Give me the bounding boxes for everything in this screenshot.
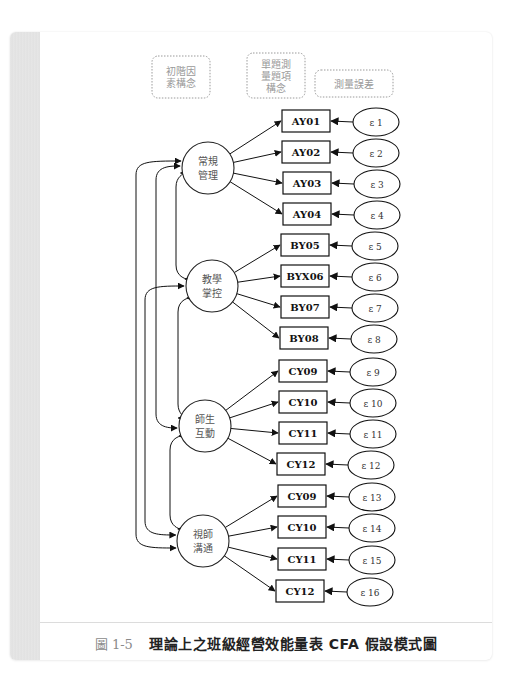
error-label: ε 8 xyxy=(367,335,381,345)
latent-factors: 常規管理教學掌控師生互動視師溝通 xyxy=(177,142,238,567)
covariance-arrow xyxy=(176,173,186,279)
indicator-14: CY10ε 14 xyxy=(278,514,395,542)
indicator-label: BY08 xyxy=(289,333,318,344)
error-arrow xyxy=(326,464,348,465)
error-label: ε 11 xyxy=(364,430,383,440)
indicator-9: CY09ε 9 xyxy=(279,358,396,386)
indicator-label: BYX06 xyxy=(286,271,323,282)
error-label: ε 16 xyxy=(361,588,380,598)
observed-items: AY01ε 1AY02ε 2AY03ε 3AY04ε 4BY05ε 5BYX06… xyxy=(276,108,400,606)
error-label: ε 2 xyxy=(369,149,382,159)
error-arrow xyxy=(331,121,353,122)
error-arrow xyxy=(331,152,353,153)
loading-arrow xyxy=(228,547,277,559)
indicator-12: CY12ε 12 xyxy=(277,451,394,479)
legend-text: 初階因 xyxy=(166,65,196,77)
covariance-arrow xyxy=(170,436,180,529)
error-arrow xyxy=(330,276,352,277)
factor-label: 視師 xyxy=(193,528,213,540)
indicator-label: CY09 xyxy=(288,366,317,377)
legend-first-order-factor: 初階因素構念 xyxy=(152,56,210,98)
loading-arrow xyxy=(229,527,277,536)
error-label: ε 6 xyxy=(368,273,382,283)
indicator-label: BY07 xyxy=(290,302,319,313)
error-arrow xyxy=(329,338,351,339)
factor-circle xyxy=(182,142,234,194)
loading-arrow xyxy=(233,173,282,183)
factor-label: 掌控 xyxy=(202,287,222,299)
loading-arrow xyxy=(228,438,276,464)
cfa-path-diagram: 初階因素構念單題測量題項構念測量誤差 常規管理教學掌控師生互動視師溝通 AY01… xyxy=(0,0,518,682)
indicator-2: AY02ε 2 xyxy=(282,139,399,167)
indicator-label: AY02 xyxy=(291,147,320,158)
indicator-label: BY05 xyxy=(290,240,319,251)
factor-label: 師生 xyxy=(195,413,215,425)
error-arrow xyxy=(325,591,347,592)
error-arrow xyxy=(327,496,349,497)
error-arrow xyxy=(328,371,350,372)
factor-loading-arrows xyxy=(224,121,282,591)
indicator-11: CY11ε 11 xyxy=(279,420,396,448)
legend-measurement-error: 測量誤差 xyxy=(315,70,393,97)
loading-arrow xyxy=(230,182,282,214)
indicator-label: CY10 xyxy=(288,397,317,408)
factor-circle xyxy=(177,515,229,567)
error-label: ε 13 xyxy=(363,493,382,503)
error-label: ε 10 xyxy=(364,399,383,409)
legend-text: 素構念 xyxy=(166,77,196,89)
indicator-4: AY04ε 4 xyxy=(283,201,400,229)
factor-label: 教學 xyxy=(202,273,222,285)
indicator-6: BYX06ε 6 xyxy=(281,263,398,291)
indicator-label: CY12 xyxy=(286,459,315,470)
legend-single-item-construct: 單題測量題項構念 xyxy=(247,53,305,98)
indicator-3: AY03ε 3 xyxy=(283,170,400,198)
error-label: ε 5 xyxy=(368,242,382,252)
error-label: ε 12 xyxy=(362,461,381,471)
error-arrow xyxy=(328,402,350,403)
loading-arrow xyxy=(234,245,280,273)
indicator-label: CY11 xyxy=(288,428,317,439)
error-arrow xyxy=(332,183,354,184)
legend-group: 初階因素構念單題測量題項構念測量誤差 xyxy=(152,53,393,98)
error-label: ε 4 xyxy=(370,211,384,221)
factor-3: 師生互動 xyxy=(179,400,231,452)
legend-text: 單題測 xyxy=(261,58,291,70)
legend-text: 測量誤差 xyxy=(334,78,374,90)
error-arrow xyxy=(327,527,349,528)
loading-arrow xyxy=(230,121,281,154)
indicator-5: BY05ε 5 xyxy=(281,232,398,260)
indicator-10: CY10ε 10 xyxy=(279,389,396,417)
factor-label: 溝通 xyxy=(193,542,213,554)
indicator-label: CY11 xyxy=(287,554,316,565)
loading-arrow xyxy=(231,428,278,433)
factor-label: 互動 xyxy=(195,427,215,439)
loading-arrow xyxy=(237,294,280,307)
legend-text: 量題項 xyxy=(261,71,291,82)
error-arrow xyxy=(330,245,352,246)
factor-1: 常規管理 xyxy=(182,142,234,194)
indicator-7: BY07ε 7 xyxy=(281,294,398,322)
loading-arrow xyxy=(233,152,281,162)
error-label: ε 7 xyxy=(368,304,382,314)
indicator-label: AY04 xyxy=(292,209,321,220)
factor-label: 管理 xyxy=(198,169,218,181)
indicator-8: BY08ε 8 xyxy=(280,325,397,353)
error-label: ε 3 xyxy=(370,180,384,190)
indicator-label: CY09 xyxy=(287,491,316,502)
indicator-label: CY10 xyxy=(287,522,316,533)
error-arrow xyxy=(327,559,349,560)
indicator-13: CY09ε 13 xyxy=(278,483,395,511)
covariance-arrow xyxy=(136,161,181,548)
factor-circle xyxy=(186,260,238,312)
indicator-label: AY03 xyxy=(292,178,321,189)
error-label: ε 1 xyxy=(369,118,382,128)
error-label: ε 14 xyxy=(363,524,382,534)
factor-covariance-arrows xyxy=(136,161,188,548)
loading-arrow xyxy=(224,556,275,591)
legend-text: 構念 xyxy=(266,82,286,94)
error-label: ε 15 xyxy=(363,556,382,566)
error-arrow xyxy=(328,433,350,434)
covariance-arrow xyxy=(178,298,188,418)
indicator-label: CY12 xyxy=(285,586,314,597)
factor-2: 教學掌控 xyxy=(186,260,238,312)
